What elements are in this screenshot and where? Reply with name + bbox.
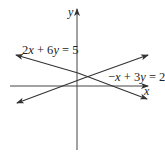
x-axis-label: x <box>143 84 150 98</box>
line-neg-x-plus-3y-eq-2 <box>17 78 84 103</box>
equation-label-1: 2x + 6y = 5 <box>22 43 79 57</box>
line-2x-plus-6y-eq-5 <box>16 55 78 73</box>
y-axis-label: y <box>67 5 74 19</box>
equation-label-2: −x + 3y = 2 <box>108 70 165 84</box>
graph-canvas: x y 2x + 6y = 5 −x + 3y = 2 <box>0 0 165 154</box>
graph-figure: x y 2x + 6y = 5 −x + 3y = 2 <box>0 0 165 154</box>
